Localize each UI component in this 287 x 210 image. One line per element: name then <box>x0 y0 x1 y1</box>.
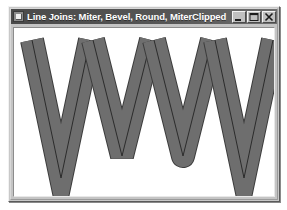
minimize-button[interactable] <box>232 11 246 23</box>
line-joins-figure <box>14 28 275 196</box>
application-window: Line Joins: Miter, Bevel, Round, MiterCl… <box>8 6 280 202</box>
window-controls <box>232 11 276 23</box>
close-button[interactable] <box>262 11 276 23</box>
window-title: Line Joins: Miter, Bevel, Round, MiterCl… <box>27 10 232 23</box>
maximize-button[interactable] <box>247 11 261 23</box>
application-icon <box>13 11 24 22</box>
title-bar[interactable]: Line Joins: Miter, Bevel, Round, MiterCl… <box>11 9 277 24</box>
screen: Line Joins: Miter, Bevel, Round, MiterCl… <box>0 0 287 210</box>
drawing-canvas <box>13 27 275 197</box>
